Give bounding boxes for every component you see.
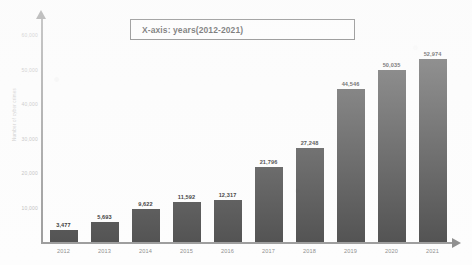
- bar[interactable]: [419, 59, 447, 242]
- y-axis-tick-label: 10,000: [8, 205, 38, 211]
- y-axis-tick-label: 60,000: [8, 32, 38, 38]
- bar[interactable]: [255, 167, 283, 242]
- y-axis-tick-label: 50,000: [8, 67, 38, 73]
- x-axis-tick-label: 2017: [255, 248, 283, 254]
- bar-value-label: 9,622: [138, 201, 153, 207]
- chart-screenshot: 60,00050,00040,00030,00020,00010,000 Num…: [0, 0, 472, 265]
- bar[interactable]: [378, 70, 406, 242]
- bar-value-label: 52,974: [424, 51, 442, 57]
- x-axis-tick-label: 2013: [91, 248, 119, 254]
- title-callout-box: X-axis: years(2012-2021): [130, 19, 355, 40]
- x-axis-tick-label: 2018: [296, 248, 324, 254]
- bar-value-label: 21,796: [260, 159, 278, 165]
- x-axis-tick-label: 2014: [132, 248, 160, 254]
- bar-value-label: 5,693: [97, 214, 112, 220]
- arrow-right-icon: [452, 238, 461, 248]
- bar-value-label: 12,317: [219, 192, 237, 198]
- bar-value-label: 3,477: [56, 222, 71, 228]
- bar-value-label: 11,592: [178, 194, 195, 200]
- title-callout-label: X-axis: years(2012-2021): [131, 25, 243, 35]
- x-axis-tick-labels: 2012201320142015201620172018201920202021: [43, 248, 453, 262]
- x-axis-tick-label: 2021: [419, 248, 447, 254]
- x-axis-tick-label: 2015: [173, 248, 201, 254]
- plot-area: 3,4775,6939,62211,59212,31721,79627,2484…: [43, 18, 453, 242]
- bar-value-label: 44,546: [342, 81, 360, 87]
- y-axis-tick-label: 20,000: [8, 170, 38, 176]
- bar-value-label: 27,248: [301, 140, 319, 146]
- bar[interactable]: [91, 222, 119, 242]
- x-axis-tick-label: 2020: [378, 248, 406, 254]
- bar[interactable]: [214, 200, 242, 242]
- bar[interactable]: [173, 202, 201, 242]
- x-axis-tick-label: 2012: [50, 248, 78, 254]
- x-axis-line: [41, 242, 453, 244]
- bar[interactable]: [132, 209, 160, 242]
- x-axis-tick-label: 2019: [337, 248, 365, 254]
- y-axis-title: Number of cyber crimes: [12, 75, 17, 155]
- bar[interactable]: [296, 148, 324, 242]
- bar[interactable]: [50, 230, 78, 242]
- bar-value-label: 50,035: [383, 62, 401, 68]
- bar[interactable]: [337, 89, 365, 243]
- x-axis-tick-label: 2016: [214, 248, 242, 254]
